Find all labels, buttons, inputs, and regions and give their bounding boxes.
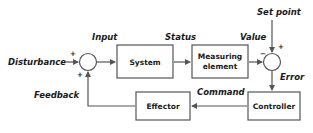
disturbance-label: Disturbance — [8, 57, 66, 67]
error-label: Error — [280, 72, 305, 82]
measuring-label-line1: Measuring — [198, 52, 242, 61]
feedback-label: Feedback — [34, 90, 81, 100]
set-point-label: Set point — [257, 7, 302, 17]
value-label: Value — [240, 32, 267, 42]
control-loop-diagram: Disturbance + Input System Status Measur… — [0, 0, 313, 133]
junction2-plus-sign: + — [278, 43, 284, 51]
summing-junction-2 — [264, 54, 281, 71]
controller-label: Controller — [253, 102, 296, 111]
system-label: System — [129, 58, 160, 67]
junction1-plus-sign-bottom: + — [77, 71, 83, 79]
effector-label: Effector — [146, 102, 179, 111]
summing-junction-1 — [80, 54, 97, 71]
junction1-plus-sign-top: + — [70, 50, 76, 58]
command-label: Command — [197, 87, 246, 97]
input-label: Input — [92, 32, 118, 42]
measuring-label-line2: element — [203, 62, 238, 71]
status-label: Status — [165, 32, 196, 42]
